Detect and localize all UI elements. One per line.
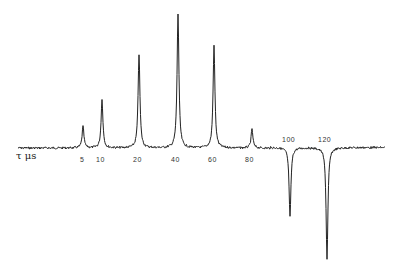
tick-label: 20 (133, 156, 142, 163)
tick-label: 10 (96, 156, 105, 163)
x-axis-label: τ μs (16, 150, 36, 161)
tick-label: 40 (171, 156, 180, 163)
tick-label: 100 (282, 136, 295, 143)
tick-label: 5 (80, 156, 84, 163)
spectrum-plot (0, 0, 402, 274)
tick-label: 120 (318, 136, 331, 143)
tick-label: 60 (208, 156, 217, 163)
tick-label: 80 (245, 156, 254, 163)
